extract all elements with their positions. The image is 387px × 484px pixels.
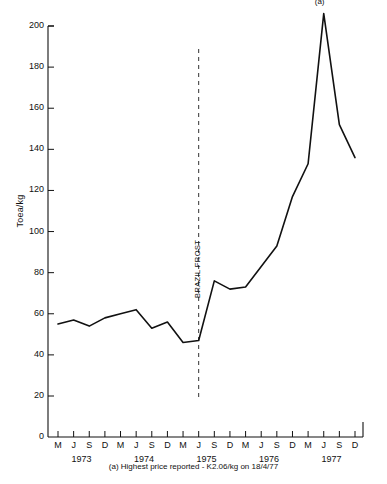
y-tick-label: 20 [14,390,44,400]
y-tick-label: 40 [14,349,44,359]
chart-footnote: (a) Highest price reported - K2.06/kg on… [0,462,387,471]
y-zero-label: 0 [14,431,44,441]
y-tick-marks [48,26,54,396]
x-tick-label: D [345,440,365,450]
y-tick-label: 180 [14,61,44,71]
footnote-text: Highest price reported - K2.06/kg on 18/… [121,462,278,471]
x-tick-marks [58,431,355,437]
y-tick-label: 100 [14,226,44,236]
price-line-series [58,14,355,343]
y-tick-label: 120 [14,184,44,194]
y-tick-label: 160 [14,102,44,112]
brazil-frost-label: BRAZIL FROST [193,240,202,298]
footnote-marker: (a) [109,462,119,471]
y-tick-label: 200 [14,20,44,30]
peak-marker-label: (a) [315,0,325,6]
y-tick-label: 60 [14,308,44,318]
y-axis-label: Toea/kg [15,171,25,251]
chart-figure: Toea/kg 20406080100120140160180200 0 MJS… [0,0,387,484]
y-tick-label: 140 [14,143,44,153]
y-tick-label: 80 [14,267,44,277]
